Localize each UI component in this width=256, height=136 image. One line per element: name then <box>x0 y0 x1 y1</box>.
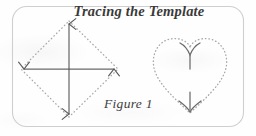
figure-title: Tracing the Template <box>0 3 256 20</box>
figure-page: Tracing the Template Figure 1 <box>0 0 256 136</box>
heart-arrows <box>179 43 201 112</box>
arrowhead-cleft-icon <box>180 43 200 55</box>
figure-caption: Figure 1 <box>104 96 153 112</box>
diamond-arrows <box>24 24 114 114</box>
heart-template <box>153 39 226 113</box>
figure-illustration <box>0 0 256 136</box>
